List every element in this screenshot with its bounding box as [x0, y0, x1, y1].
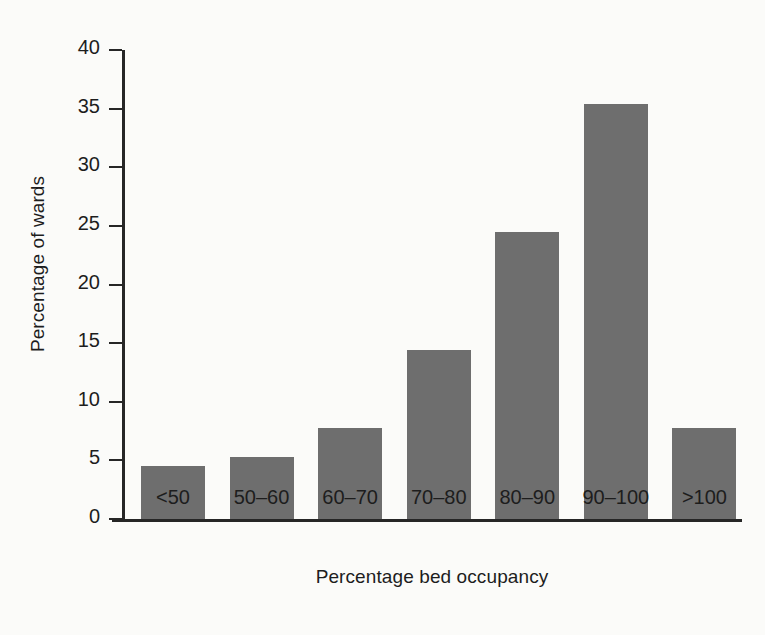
x-axis-line [112, 519, 742, 522]
y-axis-tick: 40 [109, 49, 122, 51]
y-axis-line [122, 50, 125, 522]
y-axis-tick: 5 [109, 459, 122, 461]
y-axis-tick: 30 [109, 166, 122, 168]
y-axis-tick: 15 [109, 342, 122, 344]
y-axis-title: Percentage of wards [27, 114, 49, 414]
y-axis-tick-label: 40 [78, 36, 100, 59]
bar [495, 232, 559, 519]
y-axis-tick: 35 [109, 108, 122, 110]
x-axis-tick-label: >100 [644, 486, 764, 509]
y-axis-tick: 25 [109, 225, 122, 227]
y-axis-tick: 20 [109, 284, 122, 286]
y-axis-tick-label: 5 [89, 446, 100, 469]
bar [584, 104, 648, 519]
y-axis-tick-label: 20 [78, 271, 100, 294]
y-axis-tick-label: 10 [78, 388, 100, 411]
y-axis-tick-label: 15 [78, 329, 100, 352]
y-axis-tick: 0 [109, 518, 122, 520]
y-axis-tick-label: 25 [78, 212, 100, 235]
bar-chart-figure: Percentage of wards 0510152025303540 <50… [0, 0, 765, 635]
y-axis-tick-label: 30 [78, 153, 100, 176]
y-axis-tick-label: 0 [89, 505, 100, 528]
y-axis-tick-label: 35 [78, 95, 100, 118]
y-axis-tick: 10 [109, 401, 122, 403]
plot-area: 0510152025303540 [122, 50, 742, 519]
x-axis-title: Percentage bed occupancy [122, 566, 742, 588]
